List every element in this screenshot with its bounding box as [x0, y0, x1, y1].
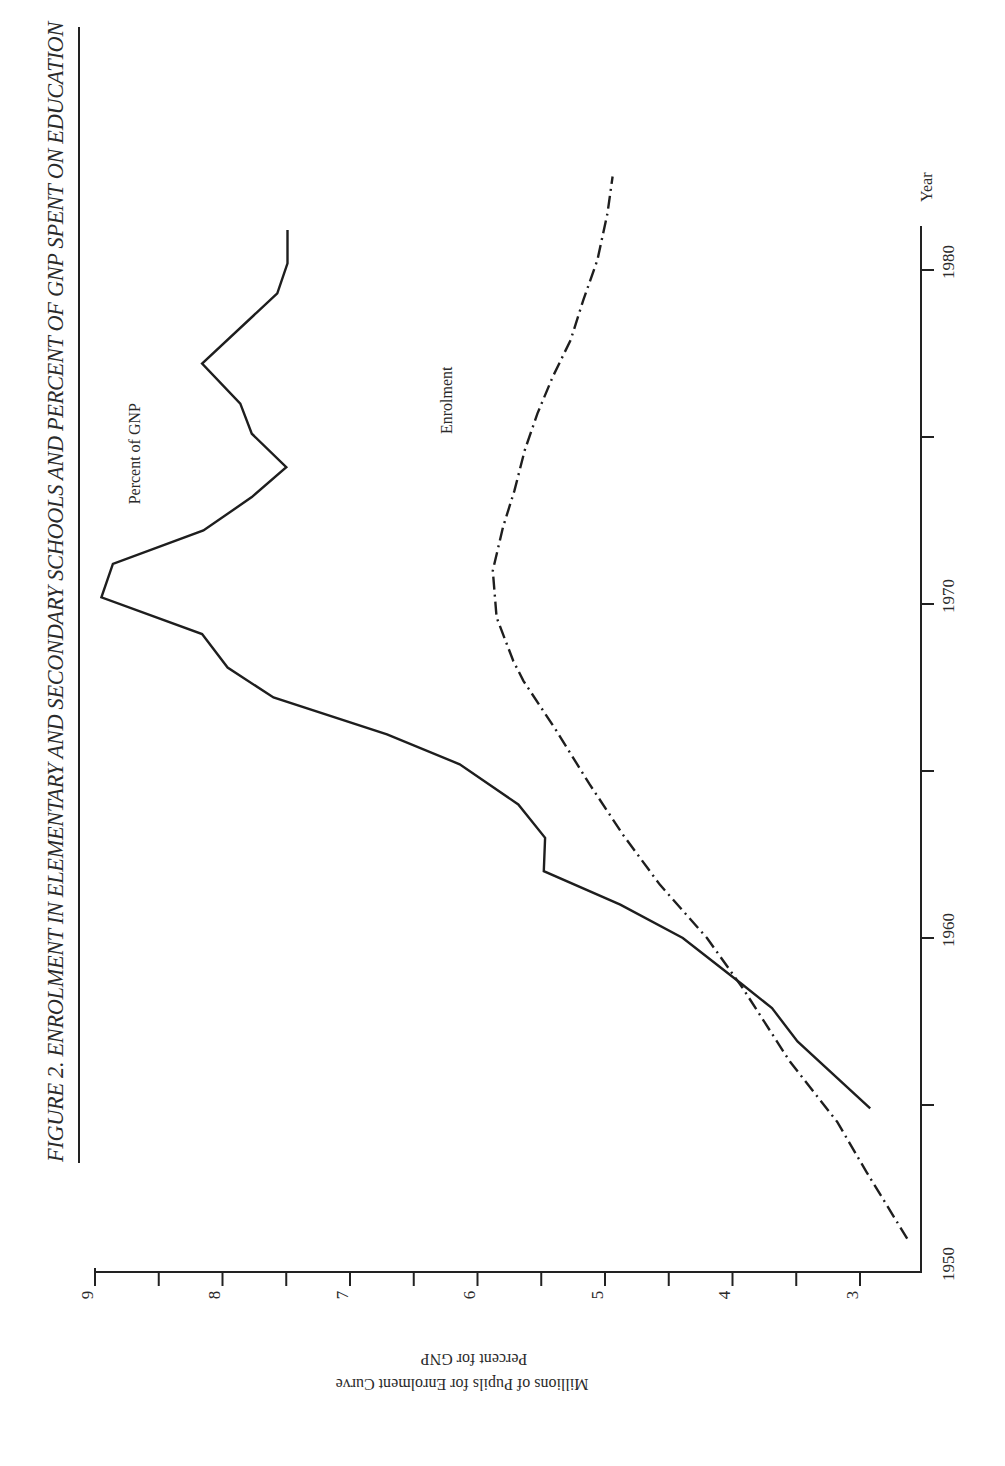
series-label-percent-of-gnp: Percent of GNP — [126, 403, 143, 504]
y-axis-title: Millions of Pupils for Enrolment Curve P… — [336, 1351, 589, 1393]
value-axis-tick-label: 9 — [78, 1291, 97, 1300]
series-label-enrolment: Enrolment — [438, 366, 455, 434]
year-axis-tick-label: 1950 — [939, 1247, 958, 1281]
figure-title: FIGURE 2. ENROLMENT IN ELEMENTARY AND SE… — [42, 20, 79, 1163]
value-axis-tick-label: 5 — [588, 1291, 607, 1300]
year-axis-ticks: 1950196019701980 — [921, 245, 958, 1281]
figure-title-text: FIGURE 2. ENROLMENT IN ELEMENTARY AND SE… — [42, 20, 68, 1163]
x-axis-title-year: Year — [918, 172, 935, 202]
y-axis-title-line2: Percent for GNP — [421, 1351, 528, 1368]
y-axis-title-line1: Millions of Pupils for Enrolment Curve — [336, 1375, 589, 1393]
value-axis-tick-label: 3 — [843, 1291, 862, 1300]
value-axis-tick-label: 8 — [205, 1291, 224, 1300]
series-enrolment-line — [493, 177, 907, 1239]
plot-area: 3456789 1950196019701980 Percent of GNP … — [78, 177, 958, 1300]
value-axis-tick-label: 6 — [460, 1291, 479, 1300]
value-axis-tick-label: 7 — [333, 1290, 352, 1299]
year-axis-tick-label: 1970 — [939, 579, 958, 613]
year-axis-tick-label: 1980 — [939, 245, 958, 279]
figure-2-chart: FIGURE 2. ENROLMENT IN ELEMENTARY AND SE… — [0, 0, 1005, 1466]
series-percent-of-gnp-line — [101, 230, 870, 1108]
year-axis-tick-label: 1960 — [939, 913, 958, 947]
value-axis-tick-label: 4 — [715, 1290, 734, 1299]
